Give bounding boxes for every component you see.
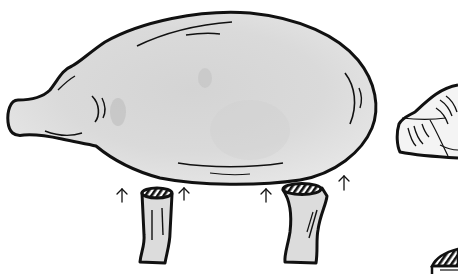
pig-balloon-illustration [0, 0, 458, 274]
arrow-up-icon [261, 189, 271, 202]
leg-top-fragment [432, 249, 458, 274]
arrow-up-icon [179, 188, 189, 200]
left-leg [140, 188, 172, 263]
right-leg [283, 184, 327, 264]
balloon-body [8, 12, 376, 184]
snout-fragment [397, 85, 458, 158]
arrow-up-icon [339, 176, 349, 190]
arrow-up-icon [117, 189, 127, 202]
